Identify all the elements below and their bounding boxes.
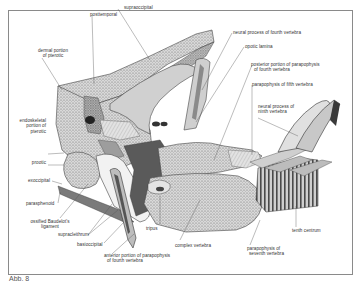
label-parapophysis-fifth: parapophysis of fifth vertebra [252, 82, 313, 87]
tripus-bone [148, 180, 170, 194]
label-posterior-parapophysis: posterior portion of parapophysis of fou… [251, 62, 320, 73]
label-supraoccipital: supraoccipital [124, 5, 153, 10]
label-prootic: prootic [14, 160, 46, 165]
label-endoskeletal-pterotic: endoskeletal portion of pterotic [14, 118, 46, 134]
skull-vertebra-illustration [0, 0, 362, 281]
label-neural-process-fourth: neural process of fourth vertebra [233, 30, 301, 35]
label-supracleithrum: supracleithrum [58, 232, 89, 237]
label-baudelot-ligament: ossified Baudelot's ligament [30, 219, 70, 230]
label-neural-process-ninth: neural process of ninth vertebra [258, 104, 294, 115]
label-opotic-lamina: opotic lamina [245, 44, 273, 49]
label-tripus: tripus [146, 226, 158, 231]
label-basioccipital: basioccipital [77, 242, 103, 247]
label-tenth-centrum: tenth centrum [292, 228, 321, 233]
label-parasphenoid: parasphenoid [26, 201, 54, 206]
label-dermal-pterotic: dermal portion of pterotic [38, 48, 68, 59]
label-exoccipital: exoccipital [14, 178, 50, 183]
label-posttemporal: posttemporal [90, 12, 117, 17]
label-anterior-parapophysis: anterior portion of parapophysis of four… [104, 253, 170, 264]
label-parapophysis-seventh: parapophysis of seventh vertebra [247, 246, 284, 257]
figure-caption: Abb. 8 [9, 275, 29, 281]
label-complex-vertebra: complex vertebra [175, 243, 211, 248]
